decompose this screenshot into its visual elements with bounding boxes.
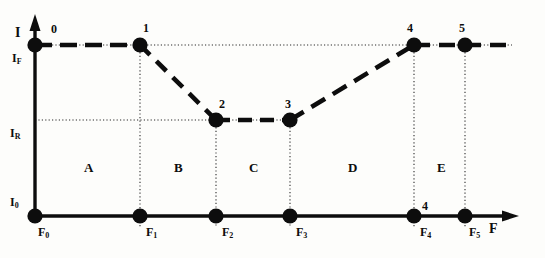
diagram-svg (0, 0, 545, 258)
point-marker-2 (208, 112, 223, 127)
region-label-C: C (249, 161, 258, 174)
axis-marker-F3 (282, 208, 297, 223)
x-tick-label-F2: F2 (222, 226, 233, 238)
point-marker-5 (457, 37, 472, 52)
region-label-D: D (348, 161, 357, 174)
x-tick-label-F3: F3 (296, 226, 307, 238)
x-tick-sub-F4: 4 (427, 231, 431, 240)
y-tick-label-I0: I0 (10, 196, 19, 208)
point-marker-1 (132, 37, 147, 52)
point-label-3: 3 (285, 98, 291, 110)
y-tick-sub-I0: 0 (15, 201, 19, 210)
vertical-gridlines (140, 45, 465, 228)
horizontal-gridlines (35, 45, 512, 120)
point-marker-0 (27, 37, 42, 52)
point-label-5: 5 (459, 22, 465, 34)
y-tick-label-IR: IR (10, 127, 20, 139)
point-label-0: 0 (51, 23, 57, 35)
axis-marker-F0 (27, 208, 42, 223)
y-tick-sub-IF: F (17, 57, 22, 66)
x-axis-label: F (489, 222, 498, 236)
point-label-4: 4 (407, 22, 413, 34)
x-tick-label-F0: F0 (38, 226, 49, 238)
point-marker-3 (282, 112, 297, 127)
x-tick-sub-F2: 2 (229, 231, 233, 240)
point-label-1: 1 (143, 22, 149, 34)
x-tick-label-F5: F5 (469, 226, 480, 238)
figure-canvas: I F IF IR I0 F0 F1 F2 F3 F4 F5 0 1 2 3 4… (0, 0, 545, 258)
x-tick-sub-F1: 1 (153, 231, 157, 240)
y-axis-label: I (15, 26, 20, 40)
x-tick-sub-F3: 3 (303, 231, 307, 240)
y-tick-label-IF: IF (12, 52, 22, 64)
axis-marker-F4 (406, 208, 421, 223)
region-label-A: A (84, 161, 93, 174)
axis-marker-F2 (208, 208, 223, 223)
point-label-2: 2 (219, 98, 225, 110)
y-tick-sub-IR: R (15, 132, 21, 141)
axis-marker-F5 (457, 208, 472, 223)
axis-annotation-4: 4 (422, 200, 428, 212)
x-tick-label-F1: F1 (146, 226, 157, 238)
page-bleed-through (112, 2, 116, 18)
y-axis-arrowhead (30, 14, 41, 31)
x-tick-sub-F0: 0 (45, 231, 49, 240)
point-marker-4 (406, 37, 421, 52)
region-label-B: B (174, 161, 183, 174)
axis-marker-F1 (132, 208, 147, 223)
waveform-trace (35, 45, 512, 120)
x-axis-arrowhead (502, 211, 519, 222)
x-tick-sub-F5: 5 (476, 231, 480, 240)
x-tick-label-F4: F4 (420, 226, 431, 238)
region-label-E: E (437, 161, 446, 174)
segment-3-4 (290, 45, 414, 120)
segment-1-2 (140, 45, 216, 120)
